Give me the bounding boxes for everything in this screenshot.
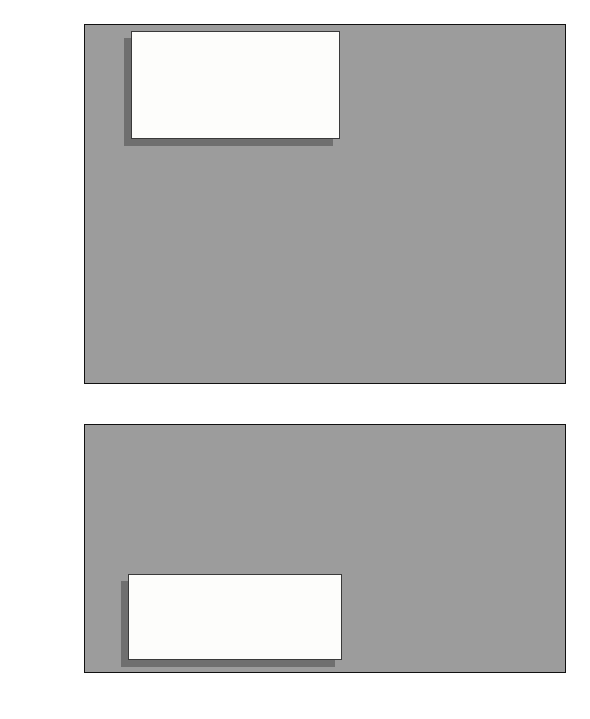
figure-page <box>0 0 590 719</box>
chart-government-spending-billions <box>0 0 590 410</box>
bottom-chart-y-tick-labels <box>2 410 76 719</box>
chart-government-spending-pct-gdp <box>0 410 590 719</box>
top-chart-x-tick-labels <box>0 386 590 404</box>
top-chart-y-tick-labels <box>2 0 76 410</box>
top-chart-legend <box>131 31 340 139</box>
bottom-chart-legend <box>128 574 342 660</box>
bottom-chart-x-tick-labels <box>0 675 590 693</box>
